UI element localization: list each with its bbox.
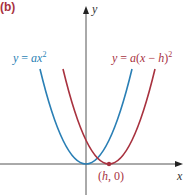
y-axis-label: y	[91, 2, 98, 16]
vertex-point	[107, 162, 111, 166]
x-axis-arrow-icon	[175, 161, 183, 167]
x-axis-label: x	[176, 169, 183, 183]
shifted-parabola-label: y = a(x − h)2	[111, 50, 172, 65]
vertex-label: (h, 0)	[98, 169, 124, 183]
y-axis-arrow-icon	[83, 6, 89, 14]
parabola-shift-diagram: (b) y x y = ax2 y = a(x − h)2 (h, 0)	[0, 0, 184, 195]
shifted-parabola-curve	[63, 69, 155, 164]
panel-label: (b)	[0, 0, 15, 14]
base-parabola-label: y = ax2	[12, 50, 46, 65]
